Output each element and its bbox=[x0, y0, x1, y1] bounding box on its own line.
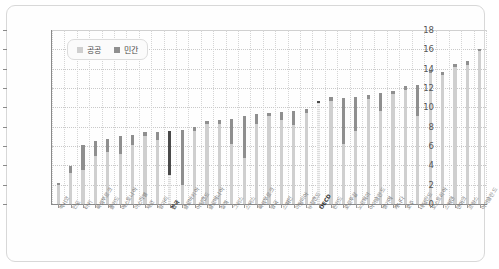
bar-아이슬란드[interactable] bbox=[367, 95, 370, 204]
bar-슬로바키아[interactable] bbox=[181, 130, 184, 204]
y-axis-label: 4 bbox=[412, 160, 434, 170]
bar-segment-private bbox=[466, 61, 469, 65]
chart-legend: 공공 민간 bbox=[67, 39, 148, 60]
bar-segment-public bbox=[466, 65, 469, 204]
gridline-vertical bbox=[312, 30, 313, 204]
bar-segment-public bbox=[94, 156, 97, 204]
bar-segment-private bbox=[317, 101, 320, 104]
gridline-vertical bbox=[474, 30, 475, 204]
bar-segment-public bbox=[478, 51, 481, 204]
bar-스위스[interactable] bbox=[243, 116, 246, 204]
y-axis bbox=[51, 30, 52, 205]
bar-segment-private bbox=[193, 127, 196, 131]
bar-segment-public bbox=[156, 140, 159, 204]
bar-아이슬란드[interactable] bbox=[478, 49, 481, 204]
bar-그리스[interactable] bbox=[230, 119, 233, 204]
y-axis-tick bbox=[3, 49, 7, 50]
bar-segment-private bbox=[243, 116, 246, 158]
bar-뉴질랜드[interactable] bbox=[305, 109, 308, 204]
bar-룩셈부르크[interactable] bbox=[94, 141, 97, 204]
gridline-vertical bbox=[300, 30, 301, 204]
gridline-vertical bbox=[201, 30, 202, 204]
bar-스웨덴[interactable] bbox=[441, 72, 444, 204]
gridline-vertical bbox=[52, 30, 53, 204]
bar-segment-private bbox=[379, 93, 382, 111]
gridline-vertical bbox=[64, 30, 65, 204]
bar-헝가리[interactable] bbox=[156, 132, 159, 205]
bar-segment-public bbox=[255, 124, 258, 204]
gridline-vertical bbox=[213, 30, 214, 204]
bar-포르투갈[interactable] bbox=[342, 98, 345, 204]
gridline-vertical bbox=[436, 30, 437, 204]
bar-segment-private bbox=[94, 141, 97, 156]
bar-segment-private bbox=[305, 109, 308, 113]
bar-segment-private bbox=[205, 121, 208, 124]
y-axis-tick bbox=[3, 30, 7, 31]
bar-한국[interactable] bbox=[168, 131, 171, 204]
gridline-vertical bbox=[399, 30, 400, 204]
bar-segment-private bbox=[478, 49, 481, 51]
gridline-vertical bbox=[350, 30, 351, 204]
legend-item-private: 민간 bbox=[114, 44, 138, 55]
bar-segment-public bbox=[81, 170, 84, 204]
bar-프랑스[interactable] bbox=[466, 61, 469, 204]
gridline-vertical bbox=[188, 30, 189, 204]
gridline-vertical bbox=[250, 30, 251, 204]
gridline-vertical bbox=[486, 30, 487, 204]
legend-swatch-private-icon bbox=[114, 47, 120, 53]
bar-에스토니아[interactable] bbox=[119, 136, 122, 204]
gridline-vertical bbox=[412, 30, 413, 204]
bar-segment-public bbox=[342, 144, 345, 204]
y-axis-tick bbox=[3, 107, 7, 108]
gridline-vertical bbox=[226, 30, 227, 204]
legend-swatch-public-icon bbox=[77, 47, 83, 53]
bar-OECD[interactable] bbox=[317, 101, 320, 204]
bar-segment-private bbox=[143, 132, 146, 136]
bar-터키[interactable] bbox=[81, 145, 84, 204]
bar-segment-public bbox=[453, 67, 456, 204]
y-axis-tick bbox=[3, 146, 7, 147]
gridline-vertical bbox=[362, 30, 363, 204]
bar-segment-private bbox=[181, 130, 184, 185]
gridline-vertical bbox=[151, 30, 152, 204]
gridline-vertical bbox=[263, 30, 264, 204]
bar-핀란드[interactable] bbox=[329, 97, 332, 204]
bar-멕시코[interactable] bbox=[57, 183, 60, 204]
gridline-vertical bbox=[275, 30, 276, 204]
bar-segment-private bbox=[81, 145, 84, 170]
bar-segment-private bbox=[404, 86, 407, 90]
chart-card: 공공 민간 024681012141618멕시코인도터키룩셈부르크폴란드에스토니… bbox=[6, 5, 485, 262]
bar-segment-public bbox=[230, 144, 233, 204]
bar-segment-private bbox=[131, 135, 134, 145]
bar-호주[interactable] bbox=[404, 86, 407, 204]
legend-label-public: 공공 bbox=[87, 44, 101, 55]
gridline-vertical bbox=[238, 30, 239, 204]
bar-segment-private bbox=[329, 97, 332, 101]
gridline-vertical bbox=[387, 30, 388, 204]
bar-노르웨이[interactable] bbox=[354, 97, 357, 204]
y-axis-label: 14 bbox=[412, 64, 434, 74]
legend-label-private: 민간 bbox=[124, 44, 138, 55]
gridline-vertical bbox=[424, 30, 425, 204]
gridline-vertical bbox=[449, 30, 450, 204]
bar-segment-private bbox=[57, 183, 60, 185]
bar-룩셈부르크[interactable] bbox=[255, 114, 258, 204]
bar-segment-public bbox=[317, 103, 320, 204]
y-axis-label: 12 bbox=[412, 83, 434, 93]
y-axis-label: 8 bbox=[412, 122, 434, 132]
bar-segment-private bbox=[119, 136, 122, 153]
bar-스페인[interactable] bbox=[280, 112, 283, 204]
bar-segment-private bbox=[106, 139, 109, 152]
gridline-vertical bbox=[288, 30, 289, 204]
bar-덴마크[interactable] bbox=[453, 64, 456, 204]
bar-캐나다[interactable] bbox=[391, 91, 394, 204]
y-axis-tick bbox=[3, 185, 7, 186]
bar-이탈리아[interactable] bbox=[292, 111, 295, 204]
y-axis-label: 16 bbox=[412, 44, 434, 54]
bar-segment-private bbox=[367, 95, 370, 99]
y-axis-tick bbox=[3, 165, 7, 166]
legend-item-public: 공공 bbox=[77, 44, 101, 55]
bar-segment-private bbox=[292, 111, 295, 125]
bar-segment-public bbox=[391, 94, 394, 204]
y-axis-label: 18 bbox=[412, 25, 434, 35]
